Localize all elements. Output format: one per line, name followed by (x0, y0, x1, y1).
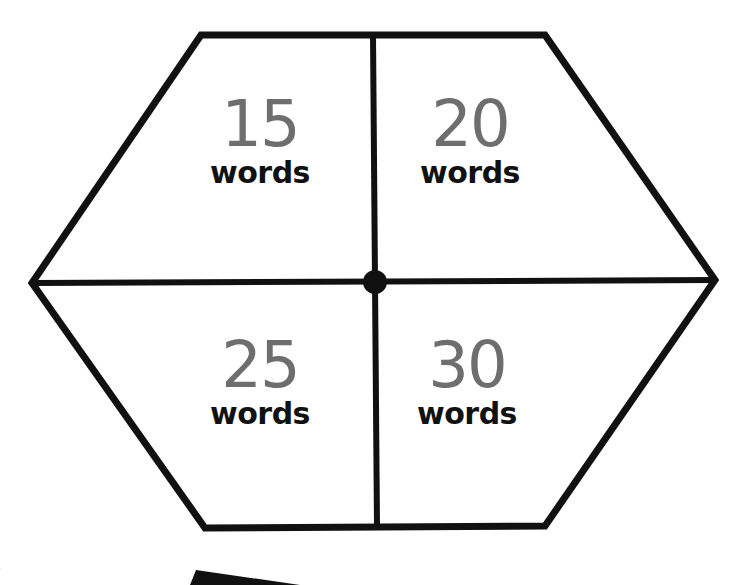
section-number: 25 (185, 333, 335, 397)
section-bottom-left[interactable]: 25 words (185, 333, 335, 431)
section-label: words (185, 156, 335, 190)
section-number: 15 (185, 92, 335, 156)
section-number: 30 (392, 333, 542, 397)
hexagon-board (0, 0, 747, 585)
section-number: 20 (395, 92, 545, 156)
section-top-right[interactable]: 20 words (395, 92, 545, 190)
section-bottom-right[interactable]: 30 words (392, 333, 542, 431)
spinner-center-dot[interactable] (363, 270, 387, 294)
section-label: words (395, 156, 545, 190)
section-top-left[interactable]: 15 words (185, 92, 335, 190)
section-label: words (185, 397, 335, 431)
spinner-arrow[interactable] (190, 570, 300, 585)
margin-text: Sen (0, 566, 2, 581)
section-label: words (392, 397, 542, 431)
